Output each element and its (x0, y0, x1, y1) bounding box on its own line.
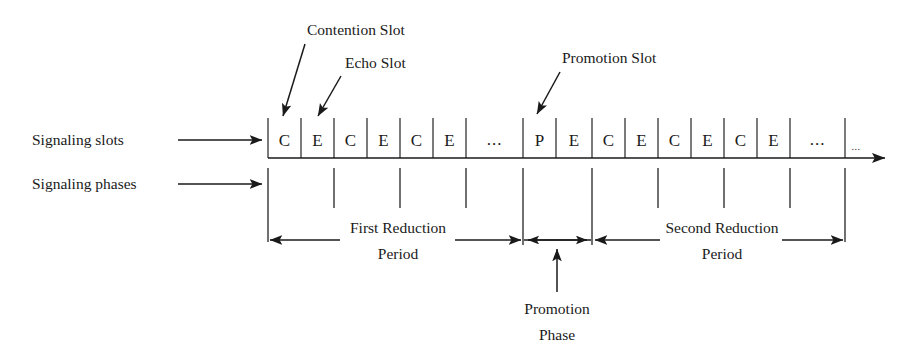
echo-slot-callout-arrow (318, 76, 341, 116)
slot-cell-5: E (444, 131, 454, 150)
promotion-slot-callout-arrow (537, 72, 560, 114)
second-reduction-period-label-line1: Second Reduction (665, 219, 778, 236)
slot-cell-4: C (411, 131, 422, 150)
signaling-phases-label: Signaling phases (32, 175, 137, 192)
signaling-timeline-diagram: Signaling slots Signaling phases Content… (0, 0, 920, 360)
slot-cell-0: C (279, 131, 290, 150)
slot-cell-12: E (702, 131, 712, 150)
signaling-slots-label: Signaling slots (32, 131, 124, 148)
trailing-ellipsis: ... (852, 141, 861, 152)
slot-cell-7: P (535, 131, 544, 150)
first-reduction-period-label-line2: Period (378, 245, 419, 262)
slot-cell-2: C (345, 131, 356, 150)
contention-slot-callout-arrow (283, 44, 305, 116)
promotion-slot-callout-label: Promotion Slot (562, 49, 657, 66)
slot-cell-15-ellipsis: ... (810, 130, 826, 149)
slot-cell-13: C (735, 131, 746, 150)
slot-cell-1: E (312, 131, 322, 150)
slot-cell-6-ellipsis: ... (487, 130, 503, 149)
slot-cell-10: E (636, 131, 646, 150)
first-reduction-period-label-line1: First Reduction (350, 219, 446, 236)
second-reduction-period-label-line2: Period (702, 245, 743, 262)
slot-cell-8: E (569, 131, 579, 150)
promotion-phase-label-line1: Promotion (524, 300, 590, 317)
slot-cell-14: E (768, 131, 778, 150)
slot-cell-11: C (669, 131, 680, 150)
echo-slot-callout-label: Echo Slot (345, 54, 406, 71)
slot-cell-3: E (378, 131, 388, 150)
promotion-phase-label-line2: Phase (539, 326, 575, 343)
slot-cell-9: C (603, 131, 614, 150)
contention-slot-callout-label: Contention Slot (307, 21, 405, 38)
